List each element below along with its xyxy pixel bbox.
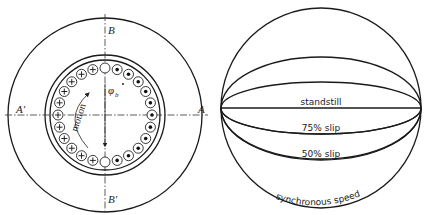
current-out-dot-icon xyxy=(136,146,140,150)
current-out-dot-icon xyxy=(136,80,140,84)
label-b-prime: B′ xyxy=(108,193,118,205)
standstill-label: standstill xyxy=(301,97,342,107)
current-out-dot-icon xyxy=(127,154,131,158)
label-a-prime: A′ xyxy=(15,103,26,115)
flux-subscript: b xyxy=(115,91,119,99)
current-out-dot-icon xyxy=(127,72,131,76)
label-b: B xyxy=(108,24,115,36)
current-out-dot-icon xyxy=(144,90,148,94)
motion-label: motion xyxy=(68,102,87,132)
conductor xyxy=(100,157,110,167)
circle-locus-diagram: standstill 75% slip 50% slip synchronous… xyxy=(221,8,421,208)
current-out-dot-icon xyxy=(144,137,148,141)
label-a: A xyxy=(197,103,205,115)
dot-marker xyxy=(122,83,124,85)
slip-50-label: 50% slip xyxy=(302,149,341,159)
current-out-dot-icon xyxy=(115,159,119,163)
flux-label: φ xyxy=(108,84,114,96)
machine-cross-section: motion φ b A A′ B B′ xyxy=(5,14,208,214)
slip-75-label: 75% slip xyxy=(302,123,341,133)
conductor xyxy=(100,63,110,73)
current-out-dot-icon xyxy=(149,101,153,105)
current-out-dot-icon xyxy=(149,125,153,129)
current-out-dot-icon xyxy=(115,68,119,72)
current-out-dot-icon xyxy=(150,113,154,117)
diagram-canvas: motion φ b A A′ B B′ standstill 75% slip… xyxy=(0,0,426,215)
